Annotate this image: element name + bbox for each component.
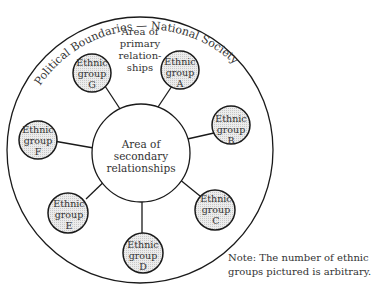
- svg-text:group: group: [55, 209, 84, 220]
- diagram-canvas: Political Boundaries — National Society …: [0, 0, 386, 291]
- svg-text:G: G: [88, 79, 96, 90]
- svg-text:D: D: [139, 261, 147, 272]
- svg-text:group: group: [24, 135, 53, 146]
- svg-text:relationships: relationships: [106, 162, 175, 174]
- ethnic-group-F: Ethnic group F: [19, 121, 57, 159]
- svg-text:F: F: [35, 146, 42, 157]
- svg-text:Ethnic: Ethnic: [127, 239, 158, 250]
- svg-text:C: C: [212, 215, 219, 226]
- primary-area-label: Area of primary relation- ships: [119, 26, 162, 73]
- svg-text:E: E: [66, 220, 73, 231]
- svg-text:Area of: Area of: [121, 26, 160, 37]
- svg-text:secondary: secondary: [114, 150, 169, 162]
- svg-text:ships: ships: [127, 62, 153, 73]
- svg-text:Ethnic: Ethnic: [53, 198, 84, 209]
- ethnic-group-G: Ethnic group G: [73, 54, 111, 92]
- svg-text:Ethnic: Ethnic: [215, 113, 246, 124]
- ethnic-group-A: Ethnic group A: [161, 51, 199, 89]
- svg-text:B: B: [228, 135, 235, 146]
- svg-text:Ethnic: Ethnic: [164, 56, 195, 67]
- svg-text:Area of: Area of: [121, 138, 162, 150]
- ethnic-group-D: Ethnic group D: [123, 233, 163, 273]
- svg-text:group: group: [78, 68, 107, 79]
- svg-text:group: group: [166, 67, 195, 78]
- svg-text:group: group: [129, 250, 158, 261]
- ethnic-group-C: Ethnic group C: [195, 190, 235, 230]
- ethnic-group-E: Ethnic group E: [48, 193, 88, 233]
- svg-text:group: group: [202, 204, 231, 215]
- ethnic-group-B: Ethnic group B: [212, 106, 250, 146]
- svg-text:Ethnic: Ethnic: [22, 124, 53, 135]
- svg-text:relation-: relation-: [119, 50, 162, 61]
- svg-text:group: group: [217, 124, 246, 135]
- svg-text:Ethnic: Ethnic: [200, 193, 231, 204]
- svg-text:primary: primary: [120, 38, 161, 49]
- svg-text:Ethnic: Ethnic: [76, 57, 107, 68]
- svg-text:A: A: [176, 78, 184, 89]
- footnote: Note: The number of ethnic groups pictur…: [228, 251, 386, 279]
